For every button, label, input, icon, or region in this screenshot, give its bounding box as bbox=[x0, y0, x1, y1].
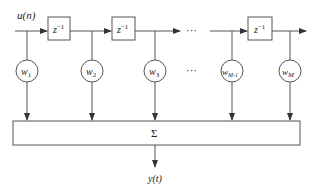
ellipsis-mid: ··· bbox=[186, 64, 197, 76]
sum-label: Σ bbox=[151, 127, 157, 139]
transversal-filter-diagram: u(n) z−1 z−1 z−1 ··· ··· w1 w2 w3 wM-1 w… bbox=[0, 0, 314, 191]
ellipsis-top: ··· bbox=[186, 24, 197, 36]
input-label: u(n) bbox=[17, 9, 36, 22]
output-label: y(t) bbox=[147, 173, 163, 185]
